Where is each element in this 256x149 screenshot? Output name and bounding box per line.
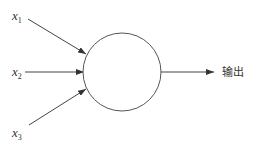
input-subscript: 3 xyxy=(18,133,22,142)
input-label-x2: x2 xyxy=(11,64,22,81)
neuron-node xyxy=(83,33,161,111)
input-arrow-x1 xyxy=(28,19,86,54)
input-label-x1: x1 xyxy=(11,8,22,25)
input-arrow-x3 xyxy=(29,89,86,125)
input-subscript: 2 xyxy=(18,72,22,81)
input-label-x3: x3 xyxy=(11,125,22,142)
input-subscript: 1 xyxy=(18,16,22,25)
output-label: 输出 xyxy=(222,65,244,79)
neuron-diagram: x1 x2 x3 输出 xyxy=(0,0,256,149)
